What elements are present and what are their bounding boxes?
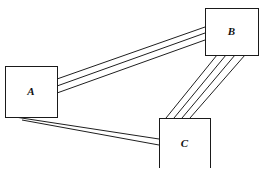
edge-bundle-b-c [166, 55, 245, 118]
diagram-svg: ABC [0, 0, 261, 168]
edge-line-a-b-2 [57, 33, 205, 86]
edge-bundle-a-c [15, 117, 159, 145]
node-a[interactable]: A [6, 67, 58, 118]
node-b[interactable]: B [206, 9, 259, 56]
edge-line-a-c-1 [15, 117, 159, 139]
edge-line-b-c-3 [182, 55, 235, 118]
nodes-layer: ABC [6, 9, 259, 169]
edge-bundle-a-b [57, 27, 205, 93]
edge-line-b-c-1 [166, 55, 217, 118]
edge-line-b-c-2 [174, 55, 226, 118]
node-label-a: A [26, 85, 34, 97]
edge-line-a-c-2 [22, 120, 159, 145]
edge-line-a-b-1 [57, 27, 205, 79]
diagram-canvas: ABC [0, 0, 261, 168]
edge-line-a-b-3 [57, 40, 205, 93]
node-label-c: C [181, 137, 189, 149]
node-c[interactable]: C [160, 119, 211, 169]
node-label-b: B [227, 25, 235, 37]
edge-line-b-c-4 [190, 55, 245, 118]
